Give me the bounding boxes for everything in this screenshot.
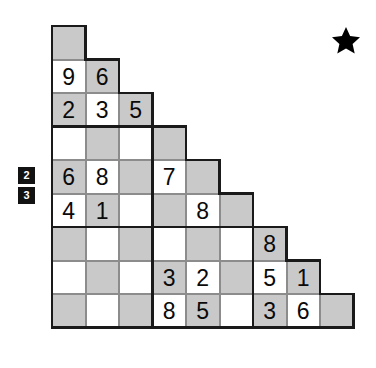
cell-value: 5 xyxy=(254,262,286,294)
grid-cell-r2-c2[interactable]: 5 xyxy=(119,93,153,127)
cell-value: 2 xyxy=(187,262,219,294)
grid-cell-r8-c4[interactable]: 5 xyxy=(186,294,220,328)
grid-cell-r8-c7[interactable]: 6 xyxy=(287,294,321,328)
cell-value: 1 xyxy=(288,262,320,294)
grid-cell-r6-c6[interactable]: 8 xyxy=(253,227,287,261)
grid-cell-r6-c0[interactable] xyxy=(52,227,86,261)
grid-cell-r7-c1[interactable] xyxy=(86,261,120,295)
cell-value: 2 xyxy=(53,94,85,126)
grid-cell-r1-c0[interactable]: 9 xyxy=(52,60,86,94)
cell-value xyxy=(221,228,253,260)
cell-value xyxy=(120,161,152,193)
grid-cell-r8-c5[interactable] xyxy=(220,294,254,328)
outline-top-r4 xyxy=(185,159,221,162)
grid-cell-r8-c6[interactable]: 3 xyxy=(253,294,287,328)
cell-value: 5 xyxy=(187,295,219,327)
grid-cell-r0-c0[interactable] xyxy=(52,26,86,60)
grid-cell-r4-c0[interactable]: 6 xyxy=(52,160,86,194)
cell-value: 5 xyxy=(120,94,152,126)
outline-right-r7 xyxy=(319,259,322,295)
cell-value xyxy=(53,128,85,160)
outline-right-r1 xyxy=(118,58,121,94)
grid-cell-r6-c4[interactable] xyxy=(186,227,220,261)
grid-cell-r4-c1[interactable]: 8 xyxy=(86,160,120,194)
cell-value: 8 xyxy=(254,228,286,260)
grid-cell-r3-c2[interactable] xyxy=(119,127,153,161)
grid-cell-r5-c5[interactable] xyxy=(220,194,254,228)
grid-cell-r3-c0[interactable] xyxy=(52,127,86,161)
grid-cell-r3-c1[interactable] xyxy=(86,127,120,161)
outline-right-r8 xyxy=(352,293,355,329)
cell-value: 6 xyxy=(288,295,320,327)
grid-cell-r4-c2[interactable] xyxy=(119,160,153,194)
cell-value xyxy=(53,262,85,294)
outline-top-r3 xyxy=(151,125,187,128)
grid-cell-r7-c5[interactable] xyxy=(220,261,254,295)
row-clue-stack: 2 3 xyxy=(18,167,36,207)
grid-cell-r6-c5[interactable] xyxy=(220,227,254,261)
grid-cell-r8-c1[interactable] xyxy=(86,294,120,328)
cell-value: 8 xyxy=(154,295,186,327)
outline-left xyxy=(51,25,54,329)
grid-cell-r3-c3[interactable] xyxy=(153,127,187,161)
puzzle-root: 2 3 96235687418832518536 xyxy=(0,0,376,368)
grid-cell-r7-c0[interactable] xyxy=(52,261,86,295)
cell-value: 3 xyxy=(254,295,286,327)
cell-value xyxy=(87,228,119,260)
cell-value: 6 xyxy=(87,61,119,93)
grid-cell-r8-c8[interactable] xyxy=(320,294,354,328)
outline-top-r0 xyxy=(52,25,87,28)
cell-value: 4 xyxy=(53,195,85,227)
grid-cell-r6-c3[interactable] xyxy=(153,227,187,261)
outline-right-r0 xyxy=(84,25,87,61)
grid-cell-r8-c0[interactable] xyxy=(52,294,86,328)
cell-value: 3 xyxy=(154,262,186,294)
grid-cell-r4-c3[interactable]: 7 xyxy=(153,160,187,194)
grid-cell-r5-c4[interactable]: 8 xyxy=(186,194,220,228)
grid-cell-r5-c0[interactable]: 4 xyxy=(52,194,86,228)
grid-cell-r7-c2[interactable] xyxy=(119,261,153,295)
grid-cell-r6-c2[interactable] xyxy=(119,227,153,261)
cell-value: 8 xyxy=(187,195,219,227)
grid-cell-r7-c3[interactable]: 3 xyxy=(153,261,187,295)
cell-value xyxy=(120,128,152,160)
grid-cell-r7-c7[interactable]: 1 xyxy=(287,261,321,295)
outline-right-r3 xyxy=(185,125,188,161)
cell-value: 1 xyxy=(87,195,119,227)
cell-value xyxy=(154,228,186,260)
grid-cell-r7-c6[interactable]: 5 xyxy=(253,261,287,295)
cell-value xyxy=(120,195,152,227)
outline-right-r6 xyxy=(285,226,288,262)
grid-cell-r5-c1[interactable]: 1 xyxy=(86,194,120,228)
outline-right-r4 xyxy=(218,159,221,195)
row-clue-box-2: 3 xyxy=(18,187,35,204)
block-rule-v-6 xyxy=(252,226,255,329)
outline-top-r8 xyxy=(319,293,355,296)
grid-cell-r5-c3[interactable] xyxy=(153,194,187,228)
grid-cell-r7-c4[interactable]: 2 xyxy=(186,261,220,295)
grid-cell-r8-c3[interactable]: 8 xyxy=(153,294,187,328)
grid-cell-r2-c0[interactable]: 2 xyxy=(52,93,86,127)
cell-value xyxy=(187,161,219,193)
cell-value xyxy=(154,128,186,160)
cell-value xyxy=(187,228,219,260)
cell-value: 9 xyxy=(53,61,85,93)
cell-value xyxy=(53,228,85,260)
cell-value xyxy=(221,195,253,227)
outline-top-r5 xyxy=(218,192,254,195)
grid-cell-r5-c2[interactable] xyxy=(119,194,153,228)
outline-top-r1 xyxy=(84,58,120,61)
outline-right-r5 xyxy=(252,192,255,228)
block-rule-h-3 xyxy=(51,125,153,128)
grid-cell-r8-c2[interactable] xyxy=(119,294,153,328)
grid-cell-r2-c1[interactable]: 3 xyxy=(86,93,120,127)
cell-value: 8 xyxy=(87,161,119,193)
cell-value xyxy=(154,195,186,227)
cell-value: 7 xyxy=(154,161,186,193)
grid-cell-r1-c1[interactable]: 6 xyxy=(86,60,120,94)
grid-cell-r4-c4[interactable] xyxy=(186,160,220,194)
grid-cell-r6-c1[interactable] xyxy=(86,227,120,261)
cell-value xyxy=(53,27,85,59)
cell-value xyxy=(87,262,119,294)
cell-value xyxy=(120,228,152,260)
